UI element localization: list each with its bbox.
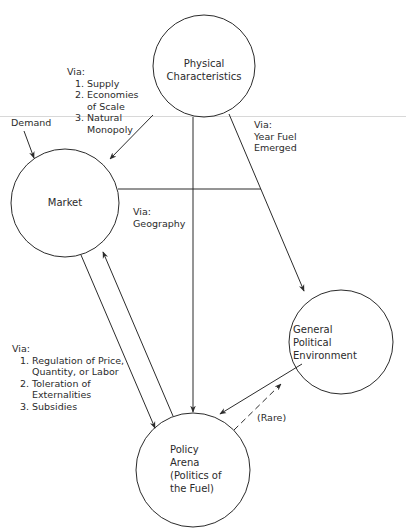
via-item: 1.Regulation of Price,Quantity, or Labor: [20, 355, 124, 378]
via-item: 3.Subsidies: [20, 401, 124, 413]
physical-market-via-label: Via: 1.Supply 2.Economiesof Scale 3.Natu…: [67, 66, 139, 135]
via-heading: Via:: [254, 119, 297, 131]
via-item-text: Economies: [87, 89, 139, 100]
via-item-text: Supply: [87, 78, 119, 89]
via-item-number: 2.: [75, 89, 84, 101]
via-item-text: Toleration of: [32, 378, 91, 389]
via-item-number: 2.: [20, 378, 29, 390]
via-item-number: 1.: [20, 355, 29, 367]
via-text: Emerged: [254, 142, 297, 154]
node-policy-line: (Politics of: [170, 469, 250, 482]
market-policy-via-label: Via: 1.Regulation of Price,Quantity, or …: [12, 343, 124, 412]
via-item-text: Externalities: [32, 389, 91, 400]
via-item-text: Subsidies: [32, 401, 77, 412]
via-item-number: 3.: [20, 401, 29, 413]
via-item-number: 3.: [75, 112, 84, 124]
node-general-line: General: [293, 323, 393, 336]
node-policy-line: Arena: [170, 456, 250, 469]
edge-demand-market: [24, 131, 34, 158]
node-physical-line: Physical: [154, 57, 254, 70]
via-item-text: Natural: [87, 112, 122, 123]
edge-general-policy: [220, 364, 302, 414]
via-heading: Via:: [67, 66, 139, 78]
via-item-text: of Scale: [87, 101, 125, 112]
via-text: Geography: [133, 218, 185, 230]
via-heading: Via:: [133, 206, 185, 218]
node-market-label: Market: [25, 196, 105, 209]
via-item-text: Quantity, or Labor: [32, 366, 119, 377]
node-policy-label: Policy Arena (Politics of the Fuel): [170, 443, 250, 495]
node-market-line: Market: [25, 196, 105, 209]
node-general-line: Environment: [293, 349, 393, 362]
via-text: Year Fuel: [254, 131, 297, 143]
demand-label: Demand: [11, 117, 51, 129]
via-item-text: Regulation of Price,: [32, 355, 124, 366]
node-general-label: General Political Environment: [293, 323, 393, 362]
via-item-number: 1.: [75, 78, 84, 90]
via-heading: Via:: [12, 343, 124, 355]
via-item: 2.Toleration ofExternalities: [20, 378, 124, 401]
node-policy-line: the Fuel): [170, 482, 250, 495]
node-physical-label: Physical Characteristics: [154, 57, 254, 83]
via-item: 2.Economiesof Scale: [75, 89, 139, 112]
via-item: 3.NaturalMonopoly: [75, 112, 139, 135]
physical-general-via-label: Via: Year Fuel Emerged: [254, 119, 297, 154]
rare-label: (Rare): [257, 412, 286, 424]
via-item: 1.Supply: [75, 78, 139, 90]
node-physical-line: Characteristics: [154, 70, 254, 83]
node-general-line: Political: [293, 336, 393, 349]
physical-policy-via-label: Via: Geography: [133, 206, 185, 229]
node-policy-line: Policy: [170, 443, 250, 456]
via-item-text: Monopoly: [87, 124, 133, 135]
